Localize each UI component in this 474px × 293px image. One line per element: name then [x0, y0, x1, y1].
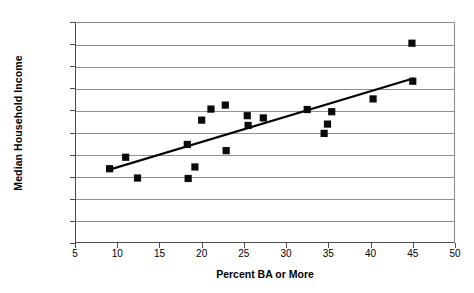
x-axis-tick-mark	[328, 243, 329, 248]
x-axis-tick-mark	[117, 243, 118, 248]
x-axis-tick-mark	[159, 243, 160, 248]
scatter-chart: Median Household Income Percent BA or Mo…	[0, 0, 474, 293]
x-axis-tick-mark	[371, 243, 372, 248]
gridline	[76, 67, 454, 68]
x-axis-tick-mark	[75, 243, 76, 248]
plot-area	[75, 22, 455, 243]
x-axis-tick-mark	[455, 243, 456, 248]
gridline	[76, 89, 454, 90]
gridline	[76, 155, 454, 156]
x-axis-tick-label: 50	[435, 248, 474, 259]
gridline	[76, 133, 454, 134]
gridline	[76, 199, 454, 200]
gridline	[76, 111, 454, 112]
x-axis-tick-label: 30	[266, 248, 306, 259]
x-axis-tick-mark	[286, 243, 287, 248]
x-axis-tick-label: 10	[97, 248, 137, 259]
x-axis-tick-label: 5	[55, 248, 95, 259]
gridline	[76, 45, 454, 46]
x-axis-tick-label: 45	[393, 248, 433, 259]
x-axis-tick-label: 20	[182, 248, 222, 259]
gridline	[76, 177, 454, 178]
x-axis-tick-mark	[413, 243, 414, 248]
y-axis-title: Median Household Income	[12, 13, 24, 233]
x-axis-title: Percent BA or More	[75, 268, 455, 280]
x-axis-tick-label: 40	[351, 248, 391, 259]
x-axis-tick-label: 25	[224, 248, 264, 259]
x-axis-tick-label: 35	[308, 248, 348, 259]
x-axis-tick-label: 15	[139, 248, 179, 259]
x-axis-tick-mark	[202, 243, 203, 248]
gridline	[76, 221, 454, 222]
x-axis-tick-mark	[244, 243, 245, 248]
